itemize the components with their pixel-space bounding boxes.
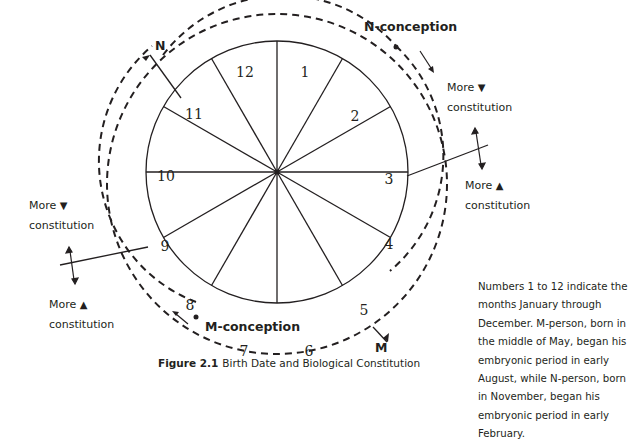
month-label-10: 10	[157, 168, 175, 184]
n-birth-tick	[150, 55, 181, 98]
month-label-5: 5	[360, 302, 369, 318]
left-boundary-line	[60, 247, 148, 265]
left-upper-annotation: More ▼ constitution	[29, 196, 94, 236]
left-lower-constitution: constitution	[49, 318, 114, 331]
left-double-arrow-icon	[66, 247, 78, 284]
m-birth-label: M	[375, 338, 387, 358]
month-label-11: 11	[185, 106, 203, 122]
month-label-8: 8	[186, 297, 195, 313]
month-label-3: 3	[385, 171, 394, 187]
right-upper-constitution: constitution	[447, 101, 512, 114]
right-boundary-line	[407, 145, 488, 176]
figure-caption-label: Figure 2.1	[158, 357, 218, 369]
triangle-up-icon: ▲	[496, 180, 504, 191]
right-lower-more: More	[465, 179, 492, 192]
m-conception-dot	[194, 315, 199, 320]
wheel-center-dot	[275, 170, 280, 175]
month-label-1: 1	[301, 64, 310, 80]
month-label-9: 9	[161, 238, 170, 254]
n-arrow-icon	[142, 55, 150, 61]
n-birth-label: N	[155, 36, 165, 56]
right-lower-constitution: constitution	[465, 199, 530, 212]
triangle-down-icon: ▼	[60, 200, 68, 211]
explanatory-note: Numbers 1 to 12 indicate the months Janu…	[478, 278, 638, 443]
right-double-arrow-icon	[472, 128, 485, 169]
right-lower-annotation: More ▲ constitution	[465, 176, 530, 216]
month-label-4: 4	[385, 236, 394, 252]
left-lower-annotation: More ▲ constitution	[49, 295, 114, 335]
month-label-12: 12	[236, 64, 254, 80]
left-lower-more: More	[49, 298, 76, 311]
triangle-down-icon: ▼	[478, 82, 486, 93]
right-upper-more: More	[447, 81, 474, 94]
left-upper-constitution: constitution	[29, 219, 94, 232]
n-conception-arrow	[420, 51, 431, 68]
n-conception-label: N-conception	[364, 17, 457, 37]
n-conception-dot	[394, 45, 399, 50]
figure-caption-title: Birth Date and Biological Constitution	[222, 357, 420, 369]
left-upper-more: More	[29, 199, 56, 212]
figure-caption: Figure 2.1Birth Date and Biological Cons…	[158, 357, 420, 369]
right-upper-annotation: More ▼ constitution	[447, 78, 512, 118]
triangle-up-icon: ▲	[80, 299, 88, 310]
month-label-2: 2	[351, 108, 360, 124]
m-conception-label: M-conception	[205, 317, 300, 337]
